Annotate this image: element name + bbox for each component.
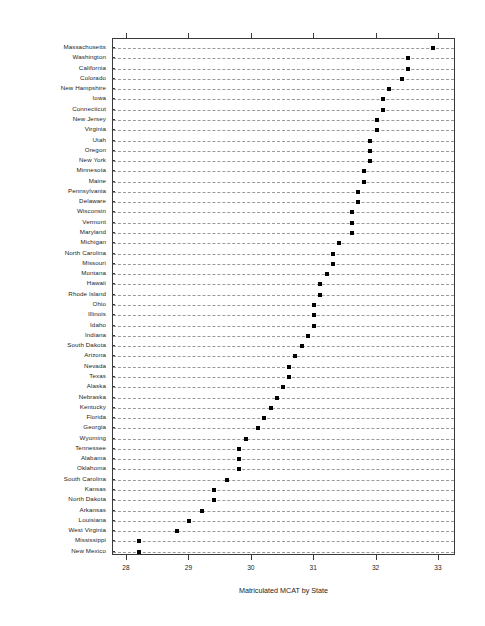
data-point[interactable]: [337, 241, 341, 245]
data-point[interactable]: [350, 221, 354, 225]
data-point[interactable]: [350, 210, 354, 214]
data-point[interactable]: [225, 478, 229, 482]
y-axis-label-hawaii: Hawaii: [0, 280, 106, 286]
x-axis-tick-mark: [126, 555, 127, 560]
data-point[interactable]: [362, 169, 366, 173]
data-point[interactable]: [431, 46, 435, 50]
data-point[interactable]: [287, 375, 291, 379]
row-gridline: [113, 531, 454, 532]
row-gridline: [113, 398, 454, 399]
y-axis-label-new-jersey: New Jersey: [0, 116, 106, 122]
data-point[interactable]: [237, 447, 241, 451]
data-point[interactable]: [375, 118, 379, 122]
x-axis-tick-mark: [376, 555, 377, 560]
y-axis-label-florida: Florida: [0, 414, 106, 420]
row-gridline: [113, 161, 454, 162]
data-point[interactable]: [137, 539, 141, 543]
data-point[interactable]: [318, 282, 322, 286]
data-point[interactable]: [256, 426, 260, 430]
data-point[interactable]: [293, 354, 297, 358]
data-point[interactable]: [325, 272, 329, 276]
x-axis-title: Matriculated MCAT by State: [112, 586, 455, 595]
y-axis-label-kentucky: Kentucky: [0, 404, 106, 410]
row-gridline: [113, 469, 454, 470]
data-point[interactable]: [387, 87, 391, 91]
y-axis-label-rhode-island: Rhode Island: [0, 291, 106, 297]
data-point[interactable]: [381, 108, 385, 112]
row-gridline: [113, 336, 454, 337]
row-gridline: [113, 480, 454, 481]
data-point[interactable]: [331, 252, 335, 256]
row-gridline: [113, 223, 454, 224]
data-point[interactable]: [306, 334, 310, 338]
y-axis-label-missouri: Missouri: [0, 260, 106, 266]
y-axis-label-nebraska: Nebraska: [0, 394, 106, 400]
data-point[interactable]: [200, 509, 204, 513]
row-gridline: [113, 459, 454, 460]
row-gridline: [113, 356, 454, 357]
data-point[interactable]: [237, 457, 241, 461]
y-axis-label-nevada: Nevada: [0, 363, 106, 369]
data-point[interactable]: [312, 313, 316, 317]
data-point[interactable]: [175, 529, 179, 533]
y-axis-label-south-carolina: South Carolina: [0, 476, 106, 482]
data-point[interactable]: [269, 406, 273, 410]
y-axis-label-idaho: Idaho: [0, 322, 106, 328]
data-point[interactable]: [368, 139, 372, 143]
data-point[interactable]: [212, 488, 216, 492]
row-gridline: [113, 418, 454, 419]
y-axis-label-maryland: Maryland: [0, 229, 106, 235]
data-point[interactable]: [137, 550, 141, 554]
y-axis-label-oklahoma: Oklahoma: [0, 465, 106, 471]
data-point[interactable]: [350, 231, 354, 235]
row-gridline: [113, 439, 454, 440]
data-point[interactable]: [400, 77, 404, 81]
y-axis-label-colorado: Colorado: [0, 75, 106, 81]
data-point[interactable]: [375, 128, 379, 132]
row-gridline: [113, 212, 454, 213]
data-point[interactable]: [318, 293, 322, 297]
y-axis-label-illinois: Illinois: [0, 311, 106, 317]
data-point[interactable]: [368, 159, 372, 163]
plot-area: [112, 38, 455, 555]
data-point[interactable]: [356, 200, 360, 204]
y-axis-label-new-york: New York: [0, 157, 106, 163]
row-gridline: [113, 99, 454, 100]
data-point[interactable]: [312, 303, 316, 307]
y-axis-label-pennsylvania: Pennsylvania: [0, 188, 106, 194]
row-gridline: [113, 243, 454, 244]
data-point[interactable]: [381, 97, 385, 101]
y-axis-label-west-virginia: West Virginia: [0, 527, 106, 533]
row-gridline: [113, 182, 454, 183]
data-point[interactable]: [406, 67, 410, 71]
y-axis-label-utah: Utah: [0, 137, 106, 143]
data-point[interactable]: [187, 519, 191, 523]
row-gridline: [113, 48, 454, 49]
data-point[interactable]: [368, 149, 372, 153]
row-gridline: [113, 264, 454, 265]
row-gridline: [113, 500, 454, 501]
x-axis-tick-label: 29: [175, 564, 201, 572]
y-axis-label-arizona: Arizona: [0, 352, 106, 358]
data-point[interactable]: [212, 498, 216, 502]
data-point[interactable]: [300, 344, 304, 348]
x-axis-tick-mark: [313, 555, 314, 560]
data-point[interactable]: [312, 324, 316, 328]
y-axis-label-wisconsin: Wisconsin: [0, 208, 106, 214]
row-gridline: [113, 89, 454, 90]
data-point[interactable]: [244, 437, 248, 441]
row-gridline: [113, 511, 454, 512]
y-axis-label-louisiana: Louisiana: [0, 517, 106, 523]
data-point[interactable]: [262, 416, 266, 420]
data-point[interactable]: [362, 180, 366, 184]
data-point[interactable]: [406, 56, 410, 60]
y-axis-label-mississippi: Mississippi: [0, 537, 106, 543]
row-gridline: [113, 254, 454, 255]
data-point[interactable]: [287, 365, 291, 369]
data-point[interactable]: [331, 262, 335, 266]
data-point[interactable]: [275, 396, 279, 400]
data-point[interactable]: [281, 385, 285, 389]
data-point[interactable]: [237, 467, 241, 471]
data-point[interactable]: [356, 190, 360, 194]
y-axis-label-virginia: Virginia: [0, 126, 106, 132]
